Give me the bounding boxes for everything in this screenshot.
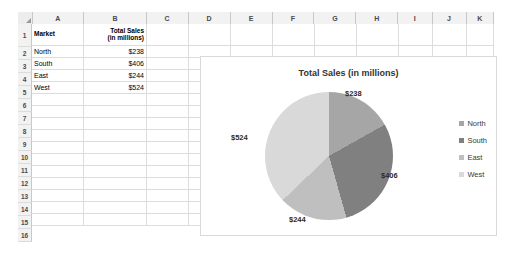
cell-c9[interactable] <box>147 130 189 142</box>
row-header-14[interactable]: 14 <box>18 203 32 216</box>
row-header-6[interactable]: 6 <box>18 99 32 112</box>
legend-label-west: West <box>467 170 484 179</box>
row-header-3[interactable]: 3 <box>18 60 32 73</box>
legend-swatch-icon-south <box>459 138 464 143</box>
legend-item-north[interactable]: North <box>459 119 487 128</box>
cell-c13[interactable] <box>147 178 189 190</box>
legend-item-east[interactable]: East <box>459 153 487 162</box>
cell-a5[interactable]: West <box>32 82 84 94</box>
cell-c7[interactable] <box>147 106 189 118</box>
pie-chart-object[interactable]: Total Sales (in millions) $238 $406 $244… <box>200 56 497 236</box>
cell-b16[interactable] <box>84 214 147 226</box>
cell-c12[interactable] <box>147 166 189 178</box>
row-header-7[interactable]: 7 <box>18 112 32 125</box>
cell-c15[interactable] <box>147 202 189 214</box>
cell-g1[interactable] <box>315 24 357 46</box>
cell-a13[interactable] <box>32 178 84 190</box>
cell-d1[interactable] <box>189 24 231 46</box>
cell-b8[interactable] <box>84 118 147 130</box>
legend-item-south[interactable]: South <box>459 136 487 145</box>
cell-k1[interactable] <box>467 24 494 46</box>
row-header-4[interactable]: 4 <box>18 73 32 86</box>
data-label-north: $238 <box>345 89 362 98</box>
row-header-5[interactable]: 5 <box>18 86 32 99</box>
cell-c8[interactable] <box>147 118 189 130</box>
pie-graphic[interactable] <box>265 92 393 220</box>
cell-c16[interactable] <box>147 214 189 226</box>
cell-a16[interactable] <box>32 214 84 226</box>
cell-a1[interactable]: Market <box>32 24 84 46</box>
cell-a8[interactable] <box>32 118 84 130</box>
legend-swatch-icon-west <box>459 172 464 177</box>
cell-b7[interactable] <box>84 106 147 118</box>
chart-title: Total Sales (in millions) <box>201 68 496 78</box>
legend-label-north: North <box>467 119 485 128</box>
row-header-12[interactable]: 12 <box>18 177 32 190</box>
cell-a9[interactable] <box>32 130 84 142</box>
data-label-west: $524 <box>231 133 248 142</box>
row-header-16[interactable]: 16 <box>18 229 32 242</box>
row-header-11[interactable]: 11 <box>18 164 32 177</box>
cell-c1[interactable] <box>147 24 189 46</box>
row-header-2[interactable]: 2 <box>18 47 32 60</box>
data-label-south: $406 <box>381 171 398 180</box>
legend-swatch-icon-east <box>459 155 464 160</box>
row-header-9[interactable]: 9 <box>18 138 32 151</box>
cell-b10[interactable] <box>84 142 147 154</box>
cell-b15[interactable] <box>84 202 147 214</box>
cell-e1[interactable] <box>231 24 273 46</box>
cell-i1[interactable] <box>399 24 433 46</box>
cell-b1[interactable]: Total Sales (in millions) <box>84 24 147 46</box>
cell-c5[interactable] <box>147 82 189 94</box>
cell-f1[interactable] <box>273 24 315 46</box>
data-label-east: $244 <box>289 215 306 224</box>
cell-b1-line2: (in millions) <box>86 35 144 42</box>
cell-a15[interactable] <box>32 202 84 214</box>
cell-c2[interactable] <box>147 46 189 58</box>
cell-b3[interactable]: $406 <box>84 58 147 70</box>
cell-b14[interactable] <box>84 190 147 202</box>
cell-c14[interactable] <box>147 190 189 202</box>
chart-legend: North South East West <box>459 119 487 179</box>
cell-c6[interactable] <box>147 94 189 106</box>
cell-b12[interactable] <box>84 166 147 178</box>
row-header-1[interactable]: 1 <box>18 24 32 47</box>
plot-area: $238 $406 $244 $524 <box>209 85 409 227</box>
cell-a7[interactable] <box>32 106 84 118</box>
cell-a2[interactable]: North <box>32 46 84 58</box>
cell-j1[interactable] <box>433 24 467 46</box>
cell-c4[interactable] <box>147 70 189 82</box>
cell-a12[interactable] <box>32 166 84 178</box>
cell-a4[interactable]: East <box>32 70 84 82</box>
cell-b13[interactable] <box>84 178 147 190</box>
cell-a10[interactable] <box>32 142 84 154</box>
cell-a14[interactable] <box>32 190 84 202</box>
cell-c3[interactable] <box>147 58 189 70</box>
sheet-row-1: Market Total Sales (in millions) <box>32 24 494 46</box>
row-header-15[interactable]: 15 <box>18 216 32 229</box>
cell-b2[interactable]: $238 <box>84 46 147 58</box>
row-header-8[interactable]: 8 <box>18 125 32 138</box>
legend-item-west[interactable]: West <box>459 170 487 179</box>
cell-a11[interactable] <box>32 154 84 166</box>
cell-b11[interactable] <box>84 154 147 166</box>
cell-b6[interactable] <box>84 94 147 106</box>
legend-swatch-icon-north <box>459 121 464 126</box>
column-header-row: A B C D E F G H I J K <box>18 12 494 24</box>
cell-b5[interactable]: $524 <box>84 82 147 94</box>
row-header-column: 1 2 3 4 5 6 7 8 9 10 11 12 13 14 15 16 <box>18 24 32 242</box>
row-header-13[interactable]: 13 <box>18 190 32 203</box>
cell-a6[interactable] <box>32 94 84 106</box>
cell-h1[interactable] <box>357 24 399 46</box>
cell-b4[interactable]: $244 <box>84 70 147 82</box>
legend-label-south: South <box>467 136 487 145</box>
spreadsheet: A B C D E F G H I J K 1 2 3 4 5 6 7 8 9 … <box>18 12 494 240</box>
cell-c10[interactable] <box>147 142 189 154</box>
cell-a3[interactable]: South <box>32 58 84 70</box>
cell-b9[interactable] <box>84 130 147 142</box>
cell-c11[interactable] <box>147 154 189 166</box>
row-header-10[interactable]: 10 <box>18 151 32 164</box>
legend-label-east: East <box>467 153 482 162</box>
